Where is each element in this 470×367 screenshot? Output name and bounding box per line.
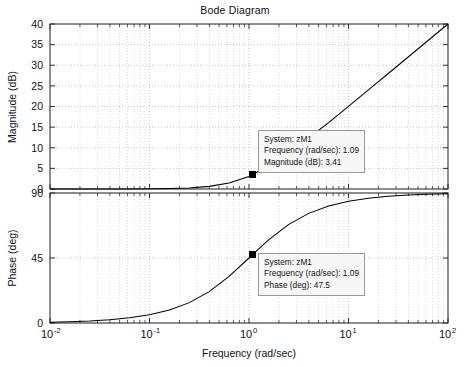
bode-diagram-figure: Bode Diagram 0510152025303540 Magnitude … [0,0,470,367]
bode-plot-canvas: 0510152025303540 Magnitude (dB) 04590 Ph… [0,0,470,367]
y-tick-label: 90 [31,187,43,199]
magnitude-subplot: 0510152025303540 Magnitude (dB) [6,18,448,195]
phase-data-tip[interactable]: System: zM1 Frequency (rad/sec): 1.09 Ph… [258,253,365,296]
svg-text:10: 10 [41,328,53,340]
magnitude-tip-value: Magnitude (dB): 3.41 [264,157,359,168]
svg-text:10: 10 [439,328,451,340]
y-tick-label: 10 [31,142,43,154]
phase-subplot: 04590 Phase (deg) [6,187,448,329]
phase-axis-label: Phase (deg) [6,229,18,286]
frequency-axis-tick-labels: 10-210-1100101102 [41,326,456,340]
y-tick-label: 30 [31,59,43,71]
magnitude-tip-frequency: Frequency (rad/sec): 1.09 [264,145,359,156]
y-tick-label: 45 [31,252,43,264]
magnitude-data-marker[interactable] [249,171,256,178]
x-tick-label: 102 [439,326,456,340]
svg-text:-1: -1 [154,326,161,335]
svg-text:10: 10 [141,328,153,340]
y-tick-label: 15 [31,121,43,133]
phase-tip-value: Phase (deg): 47.5 [264,280,359,291]
y-tick-label: 20 [31,100,43,112]
svg-text:2: 2 [452,326,456,335]
y-tick-label: 5 [37,162,43,174]
phase-y-tick-labels: 04590 [31,187,43,329]
y-tick-label: 40 [31,18,43,30]
y-tick-label: 35 [31,38,43,50]
magnitude-data-tip[interactable]: System: zM1 Frequency (rad/sec): 1.09 Ma… [258,130,365,173]
magnitude-axis-label: Magnitude (dB) [6,71,18,143]
x-tick-label: 101 [340,326,357,340]
x-tick-label: 100 [240,326,257,340]
svg-text:10: 10 [340,328,352,340]
phase-data-marker[interactable] [249,251,256,258]
y-tick-label: 25 [31,80,43,92]
x-tick-label: 10-2 [41,326,61,340]
svg-text:1: 1 [353,326,357,335]
magnitude-tip-system: System: zM1 [264,134,359,145]
frequency-axis-label: Frequency (rad/sec) [202,347,296,359]
phase-tip-frequency: Frequency (rad/sec): 1.09 [264,268,359,279]
svg-text:0: 0 [253,326,257,335]
x-tick-label: 10-1 [141,326,161,340]
y-tick-label: 0 [37,317,43,329]
svg-text:-2: -2 [54,326,61,335]
magnitude-y-tick-labels: 0510152025303540 [31,18,43,195]
phase-tip-system: System: zM1 [264,257,359,268]
svg-text:10: 10 [240,328,252,340]
